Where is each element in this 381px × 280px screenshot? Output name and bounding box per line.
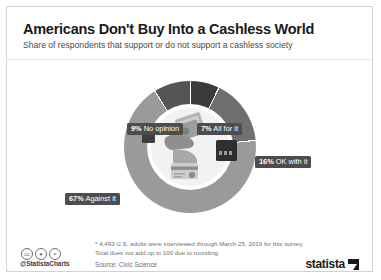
label-all-for-it: 7% All for it — [197, 123, 242, 135]
statista-handle: @StatistaCharts — [20, 260, 70, 267]
label-all-for-it-pct: 7% — [201, 124, 212, 133]
footnote: * 4,493 U.S. adults were interviewed thr… — [95, 239, 304, 258]
label-no-opinion-text: No opinion — [144, 124, 179, 133]
label-ok-with-it: 16% OK with it — [255, 156, 311, 168]
footnote-line-1: * 4,493 U.S. adults were interviewed thr… — [95, 239, 304, 248]
page-subtitle: Share of respondents that support or do … — [23, 40, 292, 50]
cc-by-icon: ● — [35, 248, 47, 260]
label-against-it: 67% Against it — [65, 193, 120, 205]
infographic-card: Americans Don't Buy Into a Cashless Worl… — [6, 6, 373, 272]
statista-logo: statista — [305, 257, 359, 271]
creative-commons-icons: cc ● = — [21, 248, 61, 260]
page-title: Americans Don't Buy Into a Cashless Worl… — [23, 21, 314, 37]
label-against-it-text: Against it — [85, 194, 115, 203]
label-ok-with-it-text: OK with it — [276, 157, 308, 166]
label-no-opinion-pct: 9% — [131, 124, 142, 133]
donut-chart: 9% No opinion 7% All for it 16% OK with … — [7, 59, 372, 229]
label-against-it-pct: 67% — [69, 194, 84, 203]
card-token-right — [216, 140, 237, 161]
statista-wordmark: statista — [305, 257, 345, 271]
footnote-line-2: Total does not add up to 100 due to roun… — [95, 248, 304, 257]
statista-flag-icon — [348, 259, 359, 270]
cc-icon: cc — [21, 248, 33, 260]
label-no-opinion: 9% No opinion — [127, 123, 183, 135]
label-all-for-it-text: All for it — [213, 124, 238, 133]
source-line: Source: Civic Science — [95, 261, 157, 268]
label-ok-with-it-pct: 16% — [259, 157, 274, 166]
cc-nd-icon: = — [49, 248, 61, 260]
